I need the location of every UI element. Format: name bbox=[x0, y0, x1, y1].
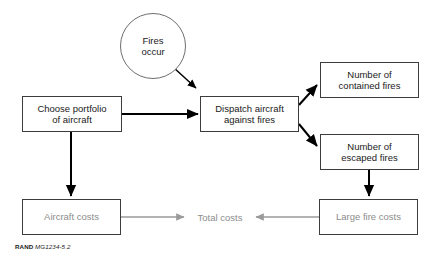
node-aircraft-costs-label: Aircraft costs bbox=[44, 211, 99, 222]
node-large-fire-costs-label: Large fire costs bbox=[336, 211, 401, 222]
caption-id: MG1234-5.2 bbox=[35, 243, 70, 250]
figure-caption: RAND MG1234-5.2 bbox=[15, 243, 71, 250]
node-fires-occur-line1: Fires bbox=[141, 35, 164, 46]
node-dispatch-aircraft-line1: Dispatch aircraft bbox=[215, 103, 284, 114]
edge-dispatch-to-escaped bbox=[299, 124, 317, 146]
caption-rand: RAND bbox=[15, 243, 33, 250]
node-choose-portfolio-line2: of aircraft bbox=[37, 114, 106, 125]
node-fires-occur: Fires occur bbox=[120, 13, 186, 79]
node-dispatch-aircraft: Dispatch aircraft against fires bbox=[200, 96, 299, 132]
edge-dispatch-to-contained bbox=[299, 85, 317, 105]
node-total-costs-label: Total costs bbox=[198, 212, 243, 223]
node-choose-portfolio-line1: Choose portfolio bbox=[37, 103, 106, 114]
node-contained-fires-line2: contained fires bbox=[339, 80, 401, 91]
node-escaped-fires-line2: escaped fires bbox=[341, 152, 398, 163]
node-aircraft-costs: Aircraft costs bbox=[22, 199, 121, 235]
node-dispatch-aircraft-line2: against fires bbox=[215, 114, 284, 125]
node-escaped-fires: Number of escaped fires bbox=[320, 134, 419, 170]
node-total-costs: Total costs bbox=[188, 209, 252, 225]
flow-diagram: Fires occur Choose portfolio of aircraft… bbox=[0, 0, 443, 272]
node-contained-fires-line1: Number of bbox=[339, 69, 401, 80]
node-escaped-fires-line1: Number of bbox=[341, 141, 398, 152]
node-fires-occur-line2: occur bbox=[141, 46, 164, 57]
node-choose-portfolio: Choose portfolio of aircraft bbox=[22, 96, 122, 132]
node-contained-fires: Number of contained fires bbox=[320, 62, 419, 98]
node-large-fire-costs: Large fire costs bbox=[319, 199, 418, 235]
